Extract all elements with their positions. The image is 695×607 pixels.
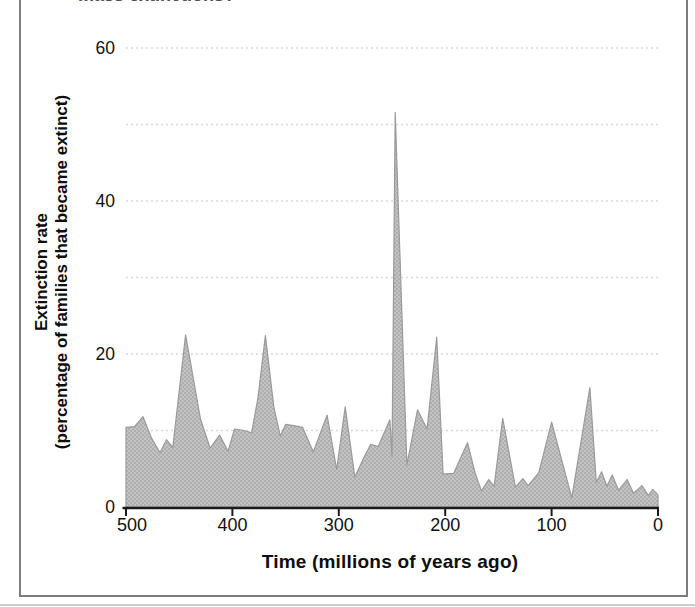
- textbook-figure: mass extinctions? Extinction rate (perce…: [0, 0, 695, 607]
- y-tick-label-20: 20: [96, 344, 116, 364]
- extinction-rate-area-chart: 50040030020010000204060: [0, 0, 695, 607]
- x-tick-label-100: 100: [537, 515, 567, 535]
- x-axis-title: Time (millions of years ago): [90, 551, 690, 573]
- x-tick-label-0: 0: [653, 515, 663, 535]
- x-tick-label-300: 300: [324, 515, 354, 535]
- x-tick-label-500: 500: [117, 515, 147, 535]
- extinction-rate-area: [126, 112, 658, 507]
- y-tick-label-40: 40: [96, 191, 116, 211]
- x-tick-label-400: 400: [217, 515, 247, 535]
- y-tick-label-0: 0: [105, 497, 115, 517]
- page-edge-artifact: [0, 604, 695, 606]
- y-tick-label-60: 60: [96, 38, 116, 58]
- x-tick-label-200: 200: [430, 515, 460, 535]
